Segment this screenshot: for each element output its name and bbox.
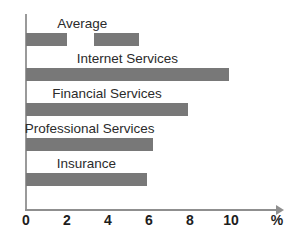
x-tick-label: 10 [218, 212, 244, 228]
bar [94, 33, 139, 46]
bar [26, 68, 229, 81]
bar-label: Financial Services [0, 85, 214, 102]
bar [26, 138, 153, 151]
x-axis-line [25, 209, 278, 211]
bar-label: Average [0, 15, 165, 32]
x-tick-label: 8 [177, 212, 203, 228]
x-axis-unit-label: % [266, 212, 288, 228]
bar-label: Insurance [0, 155, 173, 172]
plot-area: AverageInternet ServicesFinancial Servic… [0, 0, 297, 233]
bar [26, 103, 188, 116]
bar [26, 173, 147, 186]
bar [26, 33, 67, 46]
bar-chart: AverageInternet ServicesFinancial Servic… [0, 0, 297, 233]
x-tick-label: 0 [13, 212, 39, 228]
bar-label: Internet Services [0, 50, 255, 67]
x-tick-label: 4 [95, 212, 121, 228]
x-tick-label: 6 [136, 212, 162, 228]
bar-label: Professional Services [0, 120, 179, 137]
x-tick-label: 2 [54, 212, 80, 228]
